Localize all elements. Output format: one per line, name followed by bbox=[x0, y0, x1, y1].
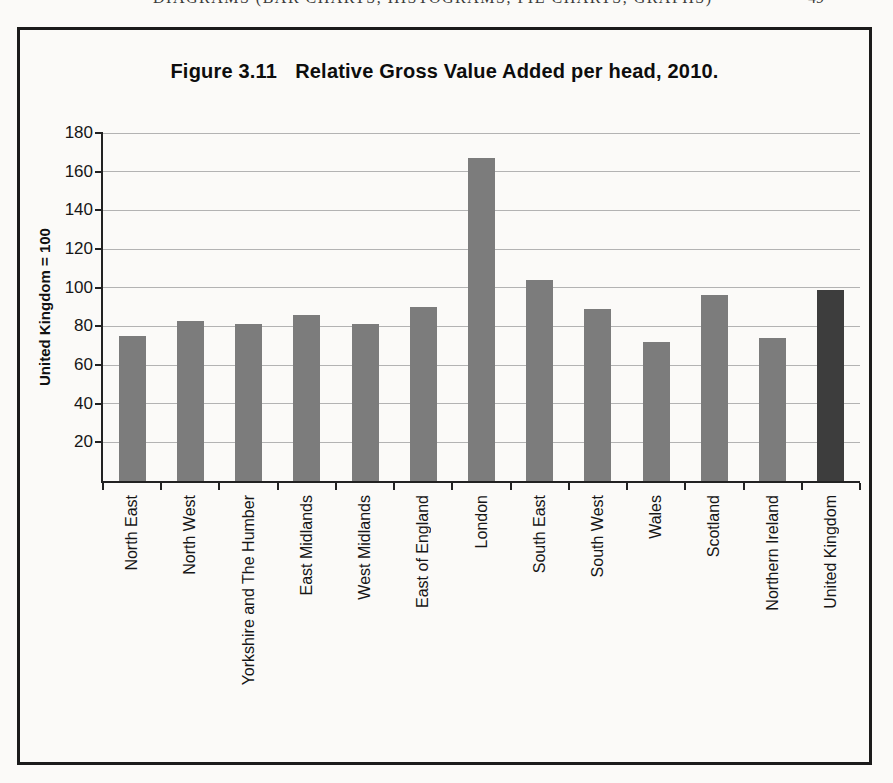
x-label-london: London bbox=[472, 495, 491, 548]
gridline-180 bbox=[103, 133, 860, 134]
bar-east-of-england bbox=[410, 307, 437, 481]
page-number: 49 bbox=[808, 0, 824, 7]
y-tick-mark-20 bbox=[95, 441, 103, 443]
y-tick-mark-180 bbox=[95, 132, 103, 134]
bar-north-west bbox=[177, 321, 204, 481]
x-label-south-west: South West bbox=[588, 495, 607, 577]
x-label-north-east: North East bbox=[122, 495, 141, 571]
bar-northern-ireland bbox=[759, 338, 786, 481]
x-label-wales: Wales bbox=[646, 495, 665, 539]
bar-west-midlands bbox=[352, 324, 379, 481]
y-tick-label-100: 100 bbox=[39, 279, 93, 297]
figure-number: Figure 3.11 bbox=[170, 60, 277, 82]
y-tick-mark-80 bbox=[95, 325, 103, 327]
plot-area: 20406080100120140160180North EastNorth W… bbox=[101, 133, 860, 483]
bar-south-east bbox=[526, 280, 553, 481]
y-tick-label-80: 80 bbox=[39, 317, 93, 335]
bar-united-kingdom bbox=[817, 290, 844, 481]
x-tick-mark-7 bbox=[510, 483, 512, 490]
x-tick-mark-5 bbox=[393, 483, 395, 490]
x-label-west-midlands: West Midlands bbox=[355, 495, 374, 600]
x-tick-mark-2 bbox=[218, 483, 220, 490]
y-tick-mark-40 bbox=[95, 403, 103, 405]
x-tick-mark-0 bbox=[102, 483, 104, 490]
y-tick-mark-60 bbox=[95, 364, 103, 366]
bar-north-east bbox=[119, 336, 146, 481]
x-label-east-of-england: East of England bbox=[413, 495, 432, 608]
bar-yorkshire-and-the-humber bbox=[235, 324, 262, 481]
bar-wales bbox=[643, 342, 670, 481]
bar-scotland bbox=[701, 295, 728, 481]
x-tick-mark-9 bbox=[626, 483, 628, 490]
x-tick-mark-10 bbox=[684, 483, 686, 490]
bar-south-west bbox=[584, 309, 611, 481]
scanned-book-page: DIAGRAMS (BAR CHARTS, HISTOGRAMS, PIE CH… bbox=[0, 0, 893, 783]
x-tick-mark-13 bbox=[859, 483, 861, 490]
bar-east-midlands bbox=[293, 315, 320, 481]
y-tick-label-120: 120 bbox=[39, 240, 93, 258]
x-label-north-west: North West bbox=[180, 495, 199, 575]
y-tick-label-140: 140 bbox=[39, 201, 93, 219]
y-tick-mark-100 bbox=[95, 287, 103, 289]
x-tick-mark-3 bbox=[277, 483, 279, 490]
x-label-scotland: Scotland bbox=[704, 495, 723, 557]
y-tick-label-20: 20 bbox=[39, 433, 93, 451]
chart-title: Figure 3.11Relative Gross Value Added pe… bbox=[17, 60, 872, 83]
y-tick-mark-140 bbox=[95, 209, 103, 211]
y-tick-label-160: 160 bbox=[39, 163, 93, 181]
x-label-northern-ireland: Northern Ireland bbox=[763, 495, 782, 611]
y-tick-label-180: 180 bbox=[39, 124, 93, 142]
x-tick-mark-4 bbox=[335, 483, 337, 490]
x-label-united-kingdom: United Kingdom bbox=[821, 495, 840, 609]
x-tick-mark-8 bbox=[568, 483, 570, 490]
x-tick-mark-12 bbox=[801, 483, 803, 490]
y-tick-label-40: 40 bbox=[39, 395, 93, 413]
y-tick-label-60: 60 bbox=[39, 356, 93, 374]
y-tick-mark-160 bbox=[95, 171, 103, 173]
x-label-yorkshire-and-the-humber: Yorkshire and The Humber bbox=[239, 495, 258, 685]
x-tick-mark-6 bbox=[451, 483, 453, 490]
bar-london bbox=[468, 158, 495, 481]
y-tick-mark-120 bbox=[95, 248, 103, 250]
running-head: DIAGRAMS (BAR CHARTS, HISTOGRAMS, PIE CH… bbox=[0, 0, 893, 10]
x-label-south-east: South East bbox=[530, 495, 549, 573]
x-tick-mark-1 bbox=[160, 483, 162, 490]
x-tick-mark-11 bbox=[743, 483, 745, 490]
x-label-east-midlands: East Midlands bbox=[297, 495, 316, 596]
figure-caption: Relative Gross Value Added per head, 201… bbox=[295, 60, 718, 82]
running-head-text: DIAGRAMS (BAR CHARTS, HISTOGRAMS, PIE CH… bbox=[153, 0, 853, 7]
